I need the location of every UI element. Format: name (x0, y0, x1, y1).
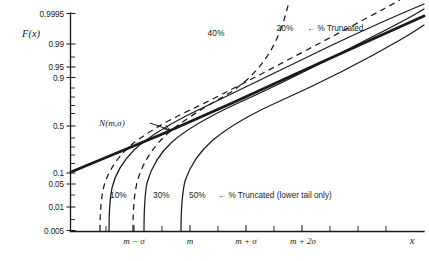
label-10-percent: 10% (110, 190, 127, 200)
y-tick-label-8: 0.005 (44, 227, 65, 236)
label-30-percent: 30% (153, 190, 170, 200)
x-tick-label-0: m − σ (123, 236, 145, 246)
y-axis-title: F(x) (21, 28, 41, 40)
x-tick-label-1: m (187, 236, 194, 246)
probability-plot-figure: 0.9995 0.99 0.95 0.9 0.5 0.1 0.05 0.01 0… (0, 0, 429, 261)
y-tick-label-4: 0.5 (53, 122, 65, 131)
y-tick-label-2: 0.95 (48, 63, 64, 72)
label-20-percent: 20% (277, 23, 294, 33)
normal-callout-arrow (150, 123, 170, 130)
y-tick-label-0: 0.9995 (40, 10, 65, 19)
label-50-percent: 50% (189, 190, 206, 200)
callout-truncated-lower: ← % Truncated (lower tail only) (218, 191, 332, 200)
y-tick-label-7: 0.01 (48, 203, 64, 212)
curve-normal-reference (71, 16, 424, 172)
y-tick-label-3: 0.9 (53, 74, 65, 83)
x-tick-label-2: m + σ (235, 236, 257, 246)
x-axis-title: x (409, 235, 415, 246)
x-tick-label-3: m + 2σ (290, 236, 317, 246)
y-tick-label-5: 0.1 (53, 169, 65, 178)
curve-truncated-50 (181, 25, 424, 231)
callout-truncated-upper: ← % Truncated (307, 24, 364, 33)
callout-normal-label: N(m,σ) (98, 118, 125, 128)
y-tick-label-6: 0.05 (48, 180, 64, 189)
y-tick-label-1: 0.99 (48, 40, 64, 49)
x-axis-ticks (106, 225, 386, 232)
label-40-percent: 40% (208, 28, 225, 38)
chart-canvas: 0.9995 0.99 0.95 0.9 0.5 0.1 0.05 0.01 0… (0, 0, 429, 261)
